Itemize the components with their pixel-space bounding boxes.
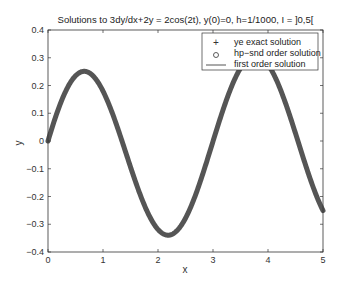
y-tick-label: 0.3 — [31, 53, 44, 63]
solution-curve — [48, 56, 323, 236]
x-axis-label: x — [183, 264, 188, 275]
y-tick-label: 0.2 — [31, 81, 44, 91]
x-tick-label: 2 — [155, 255, 160, 265]
x-tick-label: 4 — [265, 255, 270, 265]
x-tick-label: 1 — [100, 255, 105, 265]
x-tick-label: 0 — [45, 255, 50, 265]
y-tick-label: 0 — [39, 136, 44, 146]
y-tick-label: −0.3 — [26, 219, 44, 229]
legend-label-first-order: first order solution — [234, 59, 306, 69]
plus-marker-icon: + — [213, 37, 219, 48]
chart-canvas: 0123450.40.30.20.10−0.1−0.2−0.3−0.4 x y … — [0, 0, 344, 288]
y-tick-label: −0.1 — [26, 164, 44, 174]
y-tick-label: 0.4 — [31, 25, 44, 35]
legend: + ye exact solution hp−snd order solutio… — [202, 33, 321, 70]
legend-label-hp-snd: hp−snd order solution — [234, 48, 321, 58]
y-tick-label: 0.1 — [31, 108, 44, 118]
x-tick-label: 5 — [320, 255, 325, 265]
x-tick-label: 3 — [210, 255, 215, 265]
y-axis-label: y — [13, 141, 24, 146]
solution-line — [48, 56, 323, 236]
y-tick-label: −0.2 — [26, 192, 44, 202]
legend-label-exact: ye exact solution — [234, 37, 301, 47]
y-tick-label: −0.4 — [26, 247, 44, 257]
